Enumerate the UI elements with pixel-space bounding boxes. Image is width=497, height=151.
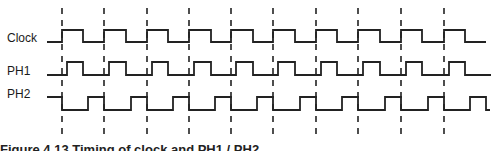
waveforms [47, 30, 491, 110]
figure-caption: Figure 4.13 Timing of clock and PH1 / PH… [0, 142, 259, 151]
signal-label-ph1: PH1 [7, 64, 30, 78]
timing-diagram [0, 0, 497, 151]
signal-label-ph2: PH2 [7, 87, 30, 101]
waveform-clock [47, 30, 486, 42]
waveform-ph1 [47, 62, 491, 75]
signal-label-clock: Clock [7, 31, 37, 45]
waveform-ph2 [47, 97, 490, 110]
